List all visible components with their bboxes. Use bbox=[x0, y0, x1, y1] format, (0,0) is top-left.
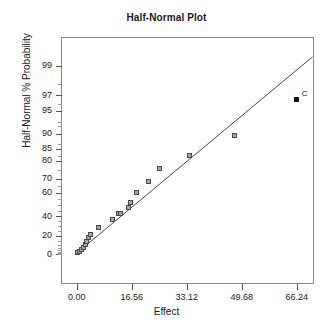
data-point-marker bbox=[118, 211, 123, 216]
y-minor-tick bbox=[58, 231, 62, 232]
y-minor-tick bbox=[58, 226, 62, 227]
y-tick-label: 85 bbox=[26, 144, 52, 153]
y-minor-tick bbox=[58, 241, 62, 242]
y-tick-label: 99 bbox=[26, 61, 52, 70]
y-tick-mark bbox=[56, 193, 62, 194]
data-point-marker bbox=[128, 200, 133, 205]
x-tick-label: 66.24 bbox=[277, 293, 317, 302]
y-tick-mark bbox=[56, 95, 62, 96]
y-minor-tick bbox=[58, 170, 62, 171]
data-point-marker bbox=[232, 133, 237, 138]
y-tick-mark bbox=[56, 66, 62, 67]
y-minor-tick bbox=[58, 250, 62, 251]
y-tick-mark bbox=[56, 161, 62, 162]
data-point-label: C bbox=[302, 89, 308, 98]
data-point-marker bbox=[88, 232, 93, 237]
data-point-marker bbox=[187, 153, 192, 158]
data-point-marker bbox=[126, 205, 131, 210]
x-tick-mark bbox=[77, 284, 78, 290]
data-point-marker bbox=[146, 179, 151, 184]
x-tick-label: 0.00 bbox=[57, 293, 97, 302]
y-minor-tick bbox=[58, 252, 62, 253]
y-minor-tick bbox=[58, 211, 62, 212]
y-tick-label: 60 bbox=[26, 188, 52, 197]
y-tick-label: 0 bbox=[26, 250, 52, 259]
x-tick-mark bbox=[242, 284, 243, 290]
y-minor-tick bbox=[58, 248, 62, 249]
y-minor-tick bbox=[58, 104, 62, 105]
data-point-marker bbox=[96, 225, 101, 230]
data-point-marker bbox=[294, 97, 299, 102]
x-tick-label: 49.68 bbox=[222, 293, 262, 302]
half-normal-plot: Half-Normal Plot Half-Normal % Probabili… bbox=[0, 0, 333, 333]
y-minor-tick bbox=[58, 144, 62, 145]
y-minor-tick bbox=[58, 122, 62, 123]
y-minor-tick bbox=[58, 253, 62, 254]
y-minor-tick bbox=[58, 84, 62, 85]
y-minor-tick bbox=[58, 199, 62, 200]
y-tick-mark bbox=[56, 149, 62, 150]
x-tick-mark bbox=[187, 284, 188, 290]
y-tick-label: 90 bbox=[26, 129, 52, 138]
y-minor-tick bbox=[58, 126, 62, 127]
y-tick-mark bbox=[56, 179, 62, 180]
x-tick-label: 33.12 bbox=[167, 293, 207, 302]
y-minor-tick bbox=[58, 254, 62, 255]
y-tick-mark bbox=[56, 111, 62, 112]
y-tick-mark bbox=[56, 216, 62, 217]
chart-title: Half-Normal Plot bbox=[0, 12, 333, 23]
y-minor-tick bbox=[58, 186, 62, 187]
y-tick-label: 70 bbox=[26, 174, 52, 183]
x-tick-mark bbox=[297, 284, 298, 290]
y-minor-tick bbox=[58, 205, 62, 206]
fit-line bbox=[61, 37, 314, 284]
data-point-marker bbox=[110, 217, 115, 222]
y-minor-tick bbox=[58, 156, 62, 157]
y-minor-tick bbox=[58, 221, 62, 222]
y-minor-tick bbox=[58, 245, 62, 246]
y-tick-label: 80 bbox=[26, 156, 52, 165]
y-tick-label: 20 bbox=[26, 231, 52, 240]
data-point-marker bbox=[157, 166, 162, 171]
y-tick-label: 40 bbox=[26, 212, 52, 221]
data-point-marker bbox=[134, 190, 139, 195]
x-tick-mark bbox=[132, 284, 133, 290]
x-tick-label: 16.56 bbox=[112, 293, 152, 302]
y-tick-label: 95 bbox=[26, 106, 52, 115]
x-axis-label: Effect bbox=[0, 306, 333, 317]
y-tick-mark bbox=[56, 236, 62, 237]
y-tick-label: 97 bbox=[26, 91, 52, 100]
y-tick-mark bbox=[56, 254, 62, 255]
y-tick-mark bbox=[56, 134, 62, 135]
